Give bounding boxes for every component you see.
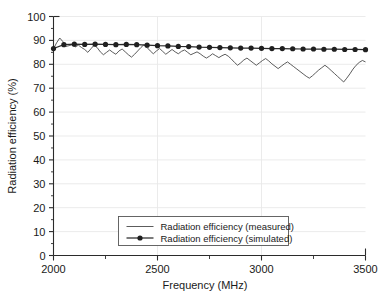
y-tick-label: 0 — [39, 250, 45, 262]
legend-label: Radiation efficiency (measured) — [161, 221, 294, 232]
series-marker-simulated — [145, 43, 150, 48]
series-marker-simulated — [269, 46, 274, 51]
series-marker-simulated — [332, 47, 337, 52]
chart-legend: Radiation efficiency (measured)Radiation… — [119, 217, 294, 246]
series-marker-simulated — [311, 46, 316, 51]
y-tick-label: 100 — [27, 11, 45, 23]
series-marker-simulated — [155, 43, 160, 48]
series-marker-simulated — [93, 42, 98, 47]
series-marker-simulated — [72, 42, 77, 47]
y-tick-label: 10 — [33, 226, 45, 238]
series-marker-simulated — [363, 47, 368, 52]
series-marker-simulated — [290, 46, 295, 51]
x-tick-label: 3500 — [353, 263, 377, 275]
y-tick-label: 60 — [33, 106, 45, 118]
y-tick-label: 80 — [33, 58, 45, 70]
series-marker-simulated — [82, 42, 87, 47]
series-marker-simulated — [321, 47, 326, 52]
series-marker-simulated — [207, 45, 212, 50]
y-tick-label: 30 — [33, 178, 45, 190]
series-marker-simulated — [238, 45, 243, 50]
data-series — [51, 38, 368, 82]
series-marker-simulated — [353, 47, 358, 52]
series-marker-simulated — [124, 42, 129, 47]
y-tick-label: 50 — [33, 130, 45, 142]
y-axis-label: Radiation efficiency (%) — [6, 78, 18, 193]
series-marker-simulated — [165, 43, 170, 48]
series-marker-simulated — [342, 47, 347, 52]
series-marker-simulated — [301, 46, 306, 51]
series-marker-simulated — [228, 45, 233, 50]
x-tick-label: 3000 — [249, 263, 273, 275]
y-tick-labels: 0102030405060708090100 — [27, 11, 45, 262]
legend-label: Radiation efficiency (simulated) — [161, 233, 293, 244]
series-marker-simulated — [61, 42, 66, 47]
series-marker-simulated — [51, 46, 56, 51]
series-marker-simulated — [134, 42, 139, 47]
x-tick-labels: 2000250030003500 — [41, 263, 377, 275]
series-marker-simulated — [186, 44, 191, 49]
series-marker-simulated — [249, 45, 254, 50]
y-tick-label: 70 — [33, 82, 45, 94]
x-tick-label: 2000 — [41, 263, 65, 275]
x-tick-label: 2500 — [145, 263, 169, 275]
y-tick-label: 90 — [33, 34, 45, 46]
chart-figure: 2000250030003500 0102030405060708090100 … — [0, 0, 381, 308]
x-axis-label: Frequency (MHz) — [163, 279, 248, 291]
y-tick-label: 20 — [33, 202, 45, 214]
y-tick-label: 40 — [33, 154, 45, 166]
series-marker-simulated — [176, 44, 181, 49]
series-marker-simulated — [259, 46, 264, 51]
series-marker-simulated — [103, 42, 108, 47]
series-marker-simulated — [217, 45, 222, 50]
legend-sample-marker-simulated — [137, 235, 142, 240]
series-marker-simulated — [280, 46, 285, 51]
series-marker-simulated — [197, 44, 202, 49]
series-marker-simulated — [113, 42, 118, 47]
radiation-efficiency-plot: 2000250030003500 0102030405060708090100 … — [0, 0, 381, 308]
